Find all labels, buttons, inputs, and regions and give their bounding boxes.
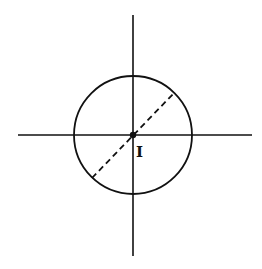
center-point [130,132,136,138]
diagram-canvas: I [0,0,262,269]
center-label: I [136,143,143,161]
